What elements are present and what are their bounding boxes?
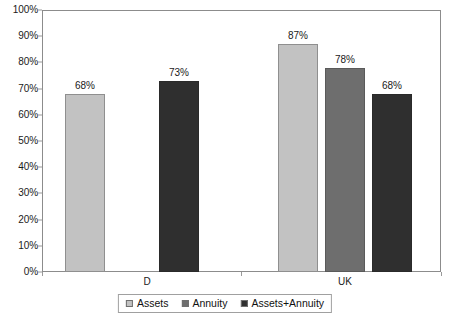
y-axis-tick-label: 30% <box>0 188 38 198</box>
bar <box>278 44 318 272</box>
legend-entry[interactable]: Annuity <box>181 297 227 309</box>
x-axis-group-label: UK <box>305 276 385 287</box>
bar <box>159 81 199 272</box>
y-axis-tick-label: 90% <box>0 31 38 41</box>
bar-value-label: 68% <box>65 80 105 91</box>
y-axis-tick-label: 60% <box>0 110 38 120</box>
legend-entry[interactable]: Assets <box>126 297 169 309</box>
bar <box>65 94 105 272</box>
bar-value-label: 87% <box>278 30 318 41</box>
y-axis-tick-label: 40% <box>0 162 38 172</box>
y-axis-tick-label: 20% <box>0 215 38 225</box>
bar-value-label: 73% <box>159 67 199 78</box>
y-axis-tick-label: 50% <box>0 136 38 146</box>
y-axis-tick-label: 70% <box>0 84 38 94</box>
bar-chart: 0%10%20%30%40%50%60%70%80%90%100% 68%73%… <box>0 0 450 321</box>
legend-swatch-icon <box>126 300 133 307</box>
legend-label: Assets <box>137 297 169 309</box>
bar-value-label: 78% <box>325 54 365 65</box>
y-axis: 0%10%20%30%40%50%60%70%80%90%100% <box>0 10 38 272</box>
y-axis-tick-label: 10% <box>0 241 38 251</box>
legend-label: Assets+Annuity <box>251 297 324 309</box>
legend-swatch-icon <box>240 300 247 307</box>
legend-label: Annuity <box>192 297 227 309</box>
x-axis-tick-mark <box>42 272 43 276</box>
y-axis-tick-label: 80% <box>0 57 38 67</box>
y-axis-tick-label: 100% <box>0 5 38 15</box>
x-axis-tick-mark <box>241 272 242 276</box>
legend-swatch-icon <box>181 300 188 307</box>
legend-entry[interactable]: Assets+Annuity <box>240 297 324 309</box>
x-axis-group-label: D <box>107 276 187 287</box>
y-axis-tick-label: 0% <box>0 267 38 277</box>
bar <box>325 68 365 272</box>
x-axis-tick-mark <box>441 272 442 276</box>
chart-legend: AssetsAnnuityAssets+Annuity <box>118 294 332 313</box>
bar <box>372 94 412 272</box>
bar-value-label: 68% <box>372 80 412 91</box>
x-axis: DUK <box>42 272 441 292</box>
plot-area: 68%73%87%78%68% <box>42 10 441 272</box>
